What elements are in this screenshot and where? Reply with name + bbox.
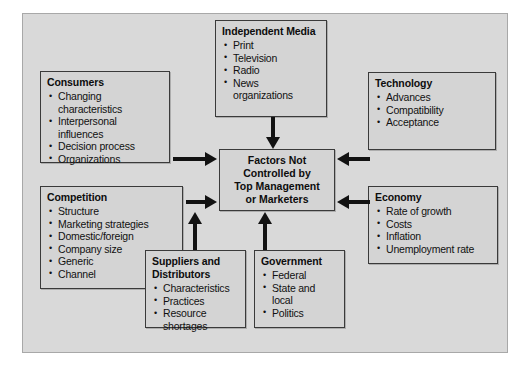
node-title: Technology (375, 77, 490, 90)
arrow-shaft (193, 223, 197, 250)
arrow-government-to-center-icon (258, 212, 272, 250)
list-item-continuation: characteristics (47, 103, 164, 116)
list-item: Radio (222, 64, 321, 77)
list-item-continuation: influences (47, 128, 164, 141)
list-item-continuation: shortages (152, 320, 240, 333)
arrow-economy-to-center-icon (337, 195, 370, 209)
list-item: Television (222, 52, 321, 65)
list-item: Resource (152, 307, 240, 320)
list-item: News (222, 77, 321, 90)
arrow-head (188, 212, 202, 224)
list-item: Inflation (375, 230, 492, 243)
list-item: Marketing strategies (47, 218, 177, 231)
arrow-shaft (263, 223, 267, 250)
list-item: Federal (261, 269, 339, 282)
list-item: Structure (47, 205, 177, 218)
node-suppliers-and-distributors[interactable]: Suppliers and Distributors Characteristi… (145, 250, 246, 328)
arrow-head (337, 152, 349, 166)
list-item: Acceptance (375, 116, 490, 129)
node-title: Suppliers and Distributors (152, 255, 240, 281)
list-item: Rate of growth (375, 205, 492, 218)
arrow-head (266, 137, 280, 149)
arrow-shaft (186, 200, 206, 204)
node-item-list: Print Television Radio News organization… (222, 39, 321, 102)
list-item: Compatibility (375, 104, 490, 117)
node-item-list: Advances Compatibility Acceptance (375, 91, 490, 129)
list-item: Characteristics (152, 282, 240, 295)
diagram-canvas: Independent Media Print Television Radio… (22, 13, 508, 353)
arrow-competition-to-center-icon (186, 195, 217, 209)
node-item-list: Rate of growth Costs Inflation Unemploym… (375, 205, 492, 255)
arrow-media-to-center-icon (266, 117, 280, 149)
node-government[interactable]: Government Federal State and local Polit… (254, 250, 345, 328)
node-economy[interactable]: Economy Rate of growth Costs Inflation U… (368, 186, 498, 264)
node-title: Consumers (47, 76, 164, 89)
arrow-suppliers-to-center-icon (188, 212, 202, 250)
arrow-shaft (348, 157, 370, 161)
node-center-factors[interactable]: Factors Not Controlled by Top Management… (219, 149, 335, 211)
list-item-continuation: organizations (222, 89, 321, 102)
list-item: State and (261, 282, 339, 295)
arrow-shaft (173, 157, 206, 161)
node-item-list: Changing characteristics Interpersonal i… (47, 90, 164, 166)
node-technology[interactable]: Technology Advances Compatibility Accept… (368, 72, 496, 150)
list-item-continuation: local (261, 294, 339, 307)
list-item: Costs (375, 218, 492, 231)
node-consumers[interactable]: Consumers Changing characteristics Inter… (40, 71, 170, 163)
list-item: Print (222, 39, 321, 52)
node-title: Government (261, 255, 339, 268)
node-title: Competition (47, 191, 177, 204)
list-item: Politics (261, 307, 339, 320)
center-line: or Marketers (245, 193, 308, 206)
list-item: Domestic/foreign (47, 230, 177, 243)
node-independent-media[interactable]: Independent Media Print Television Radio… (215, 20, 327, 117)
arrow-head (337, 195, 349, 209)
list-item: Unemployment rate (375, 243, 492, 256)
center-line: Top Management (234, 180, 320, 193)
arrow-shaft (271, 117, 275, 138)
node-item-list: Characteristics Practices Resource short… (152, 282, 240, 332)
arrow-consumers-to-center-icon (173, 152, 217, 166)
list-item: Advances (375, 91, 490, 104)
node-title: Economy (375, 191, 492, 204)
arrow-head (205, 152, 217, 166)
list-item: Changing (47, 90, 164, 103)
arrow-technology-to-center-icon (337, 152, 370, 166)
node-title: Independent Media (222, 25, 321, 38)
list-item: Interpersonal (47, 115, 164, 128)
node-item-list: Federal State and local Politics (261, 269, 339, 319)
list-item: Organizations (47, 153, 164, 166)
arrow-head (258, 212, 272, 224)
center-line: Factors Not (248, 154, 306, 167)
list-item: Practices (152, 295, 240, 308)
list-item: Decision process (47, 140, 164, 153)
arrow-head (205, 195, 217, 209)
center-line: Controlled by (243, 167, 311, 180)
arrow-shaft (348, 200, 370, 204)
